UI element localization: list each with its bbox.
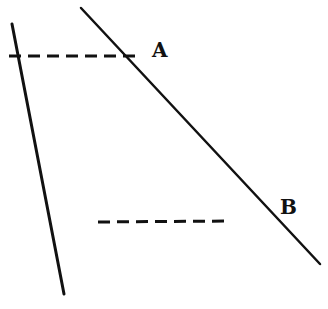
diagram-canvas: A B bbox=[0, 0, 328, 309]
dashed-segment-b bbox=[98, 221, 230, 222]
right-line bbox=[81, 8, 320, 264]
label-b: B bbox=[280, 195, 297, 219]
label-a: A bbox=[151, 38, 168, 62]
left-line bbox=[12, 24, 64, 294]
